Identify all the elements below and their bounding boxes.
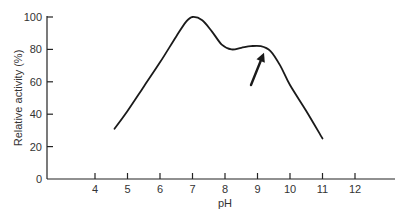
y-tick-label: 0: [36, 173, 42, 185]
annotation-arrow-icon: [251, 53, 265, 85]
x-tick-label: 6: [157, 183, 163, 195]
x-tick-label: 7: [189, 183, 195, 195]
x-axis: 456789101112: [47, 173, 395, 195]
x-tick-label: 10: [284, 183, 296, 195]
x-tick-label: 8: [222, 183, 228, 195]
y-tick-label: 80: [30, 43, 42, 55]
x-tick-label: 4: [92, 183, 98, 195]
y-tick-label: 20: [30, 141, 42, 153]
y-axis: 020406080100: [24, 11, 53, 185]
x-tick-label: 5: [124, 183, 130, 195]
x-tick-label: 12: [349, 183, 361, 195]
y-tick-label: 40: [30, 108, 42, 120]
x-tick-label: 11: [317, 183, 328, 195]
x-tick-label: 9: [254, 183, 260, 195]
y-axis-label: Relative activity (%): [12, 50, 24, 147]
activity-curve: [115, 17, 323, 139]
x-axis-label: pH: [218, 197, 232, 209]
y-tick-label: 60: [30, 76, 42, 88]
chart: 020406080100 456789101112 pH Relative ac…: [0, 0, 401, 217]
y-tick-label: 100: [24, 11, 42, 23]
